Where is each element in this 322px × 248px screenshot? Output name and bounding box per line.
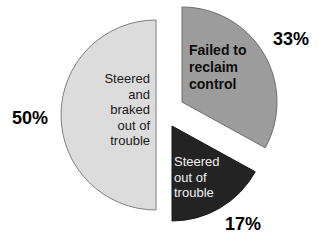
slice-label-failed-to-reclaim-control: Failed to reclaim control	[189, 42, 281, 93]
exploded-pie-chart: Failed to reclaim control 33% Steered ou…	[0, 0, 322, 248]
slice-label-steered-and-braked-out-of-trouble: Steered and braked out of trouble	[55, 71, 150, 149]
slice-value-failed-to-reclaim-control: 33%	[273, 29, 309, 50]
slice-value-steered-and-braked-out-of-trouble: 50%	[12, 108, 48, 129]
slice-label-steered-out-of-trouble: Steered out of trouble	[174, 154, 244, 201]
slice-value-steered-out-of-trouble: 17%	[225, 214, 261, 235]
